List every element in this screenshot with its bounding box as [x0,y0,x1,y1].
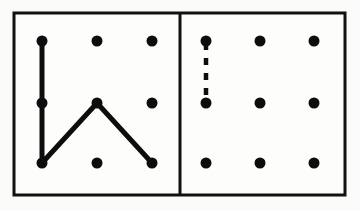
grid-dot [309,158,320,169]
grid-dot [255,36,266,47]
grid-dot [255,98,266,109]
grid-dot [92,36,103,47]
grid-dot [201,98,212,109]
grid-dot [201,158,212,169]
figure-root [0,0,360,211]
grid-dot [147,36,158,47]
grid-dot [255,158,266,169]
grid-dot [147,98,158,109]
grid-dot [92,158,103,169]
grid-dot [309,36,320,47]
grid-dot [309,98,320,109]
dot-grid-figure [0,0,360,211]
